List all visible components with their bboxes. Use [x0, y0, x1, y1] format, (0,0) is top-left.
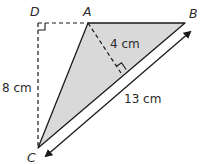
point-label-c: C [27, 150, 36, 164]
point-label-b: B [189, 6, 198, 21]
point-label-a: A [82, 4, 92, 19]
measurement-label-height: 4 cm [110, 37, 140, 51]
measurement-label-cb: 13 cm [124, 92, 161, 106]
right-angle-marker-d [38, 23, 45, 30]
point-label-d: D [30, 4, 40, 19]
triangle-diagram: D A B C 4 cm 8 cm 13 cm [0, 0, 206, 164]
measurement-label-dc: 8 cm [2, 81, 32, 95]
